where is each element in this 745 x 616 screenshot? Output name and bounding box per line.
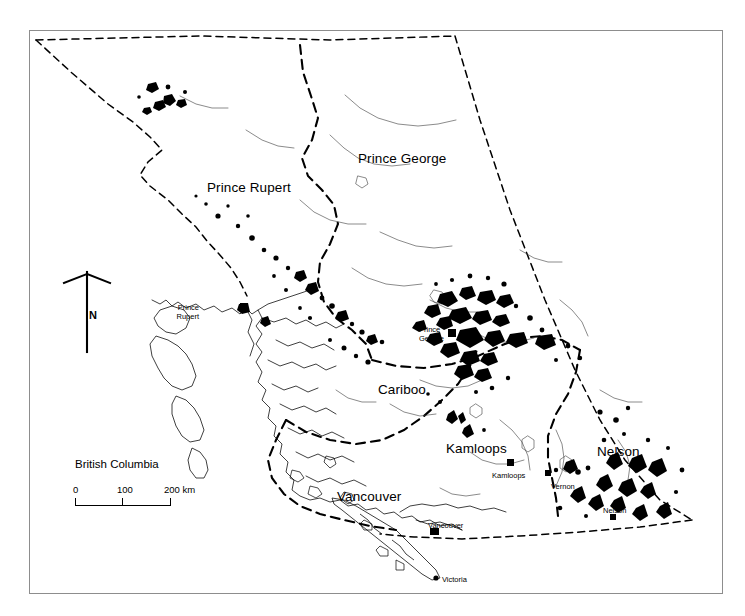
scale-label-100: 100 bbox=[117, 484, 133, 495]
region-label-prince-george: Prince George bbox=[358, 151, 446, 166]
city-label-nelson: Nelson bbox=[603, 507, 626, 516]
coastline bbox=[152, 288, 506, 530]
city-label-vancouver: Vancouver bbox=[428, 522, 463, 531]
region-label-nelson: Nelson bbox=[597, 444, 640, 459]
north-arrow-label: N bbox=[88, 310, 98, 321]
region-label-prince-rupert: Prince Rupert bbox=[207, 180, 291, 195]
city-label-victoria: Victoria bbox=[442, 576, 467, 585]
city-label-vernon: Vernon bbox=[551, 483, 575, 492]
scale-tick-0 bbox=[75, 498, 76, 506]
scale-bar: British Columbia 0 100 200 km bbox=[75, 458, 205, 507]
coastal-islands bbox=[290, 456, 404, 570]
city-label-line: George bbox=[419, 335, 444, 344]
map-figure: Prince Rupert Prince George Cariboo Kaml… bbox=[0, 0, 745, 616]
city-label-kamloops: Kamloops bbox=[492, 472, 525, 481]
city-label-prince-rupert: Prince Rupert bbox=[176, 304, 199, 321]
haida-gwaii-islands bbox=[150, 306, 208, 478]
region-label-kamloops: Kamloops bbox=[446, 441, 507, 456]
map-title: British Columbia bbox=[75, 458, 205, 470]
region-label-cariboo: Cariboo bbox=[378, 382, 426, 397]
city-label-prince-george: Prince George bbox=[419, 326, 444, 343]
scale-label-0: 0 bbox=[73, 484, 78, 495]
scale-label-200: 200 km bbox=[164, 484, 195, 495]
region-label-vancouver: Vancouver bbox=[337, 489, 401, 504]
scale-tick-1 bbox=[122, 498, 123, 506]
city-label-line: Rupert bbox=[176, 313, 199, 322]
scale-bar-rule bbox=[75, 498, 171, 507]
scale-tick-2 bbox=[170, 498, 171, 506]
scale-bar-labels: 0 100 200 km bbox=[75, 484, 205, 497]
vancouver-island bbox=[332, 498, 440, 580]
north-arrow: N bbox=[72, 268, 118, 360]
